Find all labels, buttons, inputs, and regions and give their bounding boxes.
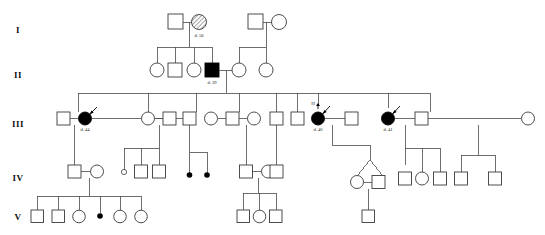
generation-label-I: I (16, 25, 20, 35)
individual-IV-2-female-unaffected[interactable] (91, 165, 104, 178)
individual-III-3-female-unaffected[interactable] (142, 112, 155, 125)
individual-II-3-female-unaffected[interactable] (187, 63, 201, 77)
individual-IV-17-male-unaffected[interactable] (489, 172, 502, 185)
individual-V-10-male-unaffected[interactable] (362, 210, 375, 223)
generation-label-II: II (14, 70, 22, 80)
individual-V-9-male-unaffected[interactable] (270, 210, 283, 223)
proband-arrow-III-2 (89, 107, 97, 115)
generation-label-V: V (15, 212, 22, 222)
individual-I-1-male-unaffected[interactable] (168, 14, 183, 29)
descent-III-13-to-IV (405, 125, 440, 172)
individual-V-2-male-unaffected[interactable] (52, 210, 65, 223)
individual-II-4-male-affected[interactable] (205, 63, 219, 77)
individual-III-5-female-unaffected[interactable] (205, 112, 218, 125)
individual-III-12-male-unaffected[interactable] (345, 112, 358, 125)
descent-IV-1-to-V (37, 178, 141, 213)
age-label-III-2: d. 44 (80, 127, 90, 132)
individual-III-2-female-affected-proband[interactable] (79, 112, 92, 125)
descent-III-11-to-IV-twins (332, 125, 383, 176)
individual-III-4-male-unaffected[interactable] (183, 112, 196, 125)
proband-arrow-III-13 (392, 106, 400, 115)
individual-I-2-female-carrier[interactable] (192, 15, 207, 30)
individual-IV-15-male-unaffected[interactable] (434, 172, 447, 185)
individual-II-1-female-unaffected[interactable] (150, 63, 164, 77)
individual-III-14-male-unaffected[interactable] (415, 112, 428, 125)
individual-IV-3-pregnancy-loss[interactable] (121, 169, 126, 174)
descent-III-4-to-IV-dots (190, 125, 208, 175)
generation-label-III: III (12, 119, 24, 129)
individual-V-3-female-unaffected[interactable] (73, 210, 86, 223)
individual-IV-5-male-unaffected[interactable] (153, 165, 166, 178)
h-marker-label-III-11: H (311, 101, 315, 106)
individual-II-2-male-unaffected[interactable] (168, 63, 182, 77)
pedigree-canvas: I II III IV V d. 50 (0, 0, 545, 235)
individual-III-15-female-unaffected[interactable] (522, 112, 535, 125)
descent-II-to-III (78, 70, 430, 112)
individual-I-4-female-unaffected[interactable] (272, 15, 287, 30)
individual-III-8-male-unaffected[interactable] (270, 112, 283, 125)
individual-I-3-male-unaffected[interactable] (248, 14, 263, 29)
age-label-III-13: d. 41 (383, 127, 393, 132)
individual-II-6-female-unaffected[interactable] (259, 63, 273, 77)
individual-IV-6-affected-infant[interactable] (187, 172, 193, 178)
individual-III-6-male-unaffected[interactable] (226, 112, 239, 125)
age-label-III-11: d. 46 (313, 127, 323, 132)
generation-label-IV: IV (12, 173, 23, 183)
pedigree-chart: I II III IV V d. 50 (0, 0, 545, 235)
individual-III-9-male-unaffected[interactable] (291, 112, 304, 125)
individual-IV-14-female-unaffected[interactable] (416, 172, 429, 185)
individual-IV-7-affected-infant[interactable] (204, 172, 210, 178)
age-label-I-2: d. 50 (194, 33, 204, 38)
individual-III-3-spouse-male-unaffected[interactable] (163, 112, 176, 125)
individual-V-1-male-unaffected[interactable] (31, 210, 44, 223)
individual-IV-13-male-unaffected[interactable] (399, 172, 412, 185)
individual-IV-16-male-unaffected[interactable] (455, 172, 468, 185)
individual-V-8-female-unaffected[interactable] (253, 210, 266, 223)
age-label-II-4: d. 39 (207, 80, 217, 85)
individual-III-7-female-unaffected[interactable] (248, 112, 261, 125)
individual-V-7-male-unaffected[interactable] (237, 210, 250, 223)
individual-IV-1-male-unaffected[interactable] (68, 165, 81, 178)
individual-II-5-female-unaffected[interactable] (232, 63, 246, 77)
descent-III-15-to-IV (461, 125, 495, 172)
individual-III-1-male-unaffected[interactable] (57, 112, 70, 125)
individual-IV-11-female-twin[interactable] (351, 176, 364, 189)
individual-IV-8-male-unaffected[interactable] (240, 165, 253, 178)
individual-V-6-female-unaffected[interactable] (135, 210, 148, 223)
individual-IV-12-male-unaffected[interactable] (372, 176, 385, 189)
individual-V-4-affected-infant[interactable] (97, 213, 103, 219)
individual-IV-10-male-unaffected[interactable] (270, 165, 283, 178)
individual-V-5-female-unaffected[interactable] (114, 210, 127, 223)
individual-IV-4-male-unaffected[interactable] (135, 165, 148, 178)
descent-IV-8-to-V (243, 178, 276, 212)
